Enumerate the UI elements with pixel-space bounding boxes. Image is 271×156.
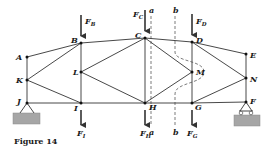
truss-diagram: A B C D E K L M N J I H G F FB FC FD FI … bbox=[0, 0, 271, 156]
label-A: A bbox=[15, 52, 22, 62]
section-a-label-bottom: a bbox=[149, 127, 154, 137]
load-labels: FB FC FD FI FH FG bbox=[76, 9, 207, 139]
label-I: I bbox=[73, 103, 78, 113]
label-E: E bbox=[249, 50, 257, 60]
figure-caption: Figure 14 bbox=[14, 136, 57, 146]
section-b-label-top: b bbox=[173, 5, 179, 15]
label-G: G bbox=[195, 102, 202, 112]
label-F: F bbox=[249, 96, 257, 106]
roller-support-F bbox=[234, 102, 260, 126]
label-D: D bbox=[195, 35, 203, 45]
section-a-label-top: a bbox=[149, 5, 154, 15]
truss-members bbox=[27, 38, 246, 103]
label-FD: FD bbox=[195, 16, 207, 27]
label-C: C bbox=[135, 30, 142, 40]
label-K: K bbox=[15, 75, 24, 85]
label-FC: FC bbox=[132, 9, 144, 20]
label-M: M bbox=[195, 67, 206, 77]
section-labels: a b a b bbox=[149, 5, 179, 137]
label-L: L bbox=[72, 67, 79, 77]
label-FB: FB bbox=[84, 16, 96, 27]
label-J: J bbox=[15, 96, 22, 106]
label-H: H bbox=[148, 102, 157, 112]
label-FG: FG bbox=[186, 128, 198, 139]
label-N: N bbox=[249, 74, 258, 84]
label-B: B bbox=[70, 35, 78, 45]
label-FI: FI bbox=[76, 128, 86, 139]
section-b-label-bottom: b bbox=[173, 127, 179, 137]
pin-support-J bbox=[13, 103, 40, 124]
